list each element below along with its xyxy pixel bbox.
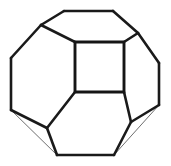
figure-canvas [0,0,171,166]
truncated-octahedron-drawing [0,0,171,166]
